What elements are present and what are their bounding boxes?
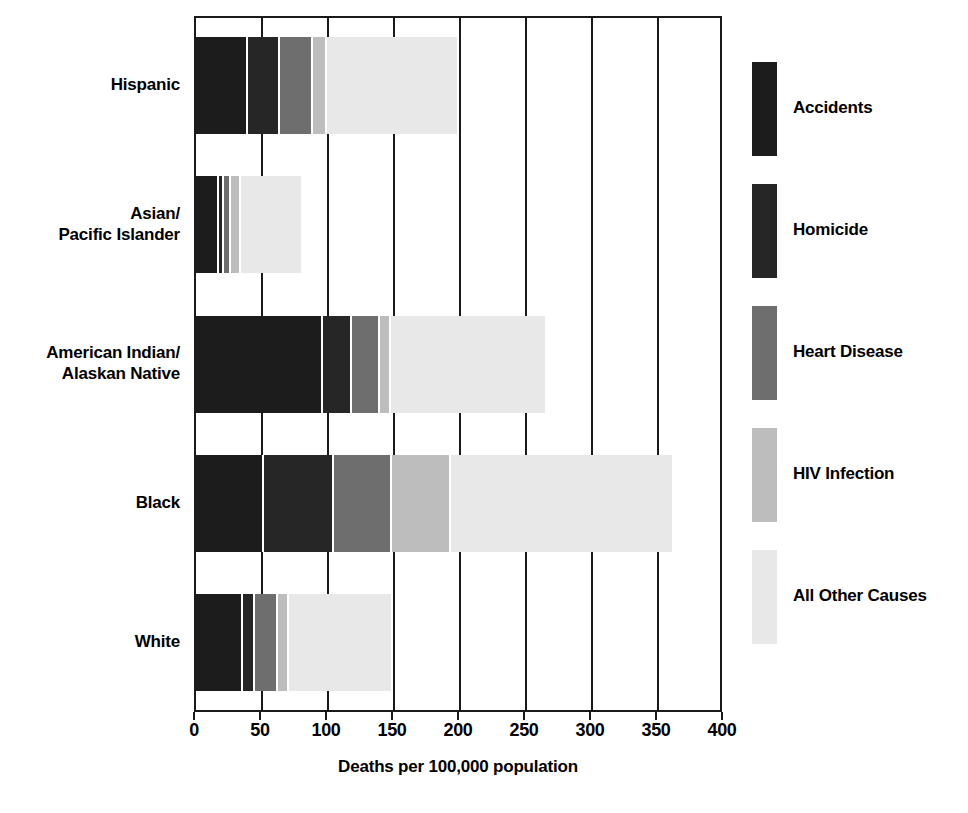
bar-segment[interactable] (224, 176, 231, 273)
bar-segment[interactable] (231, 176, 242, 273)
bar-row (194, 37, 722, 134)
bar-segment[interactable] (194, 37, 248, 134)
x-tick-label: 350 (641, 720, 670, 741)
x-tick-mark (325, 712, 327, 720)
legend-swatch (752, 428, 777, 522)
x-tick-label: 0 (189, 720, 199, 741)
category-label: White (135, 632, 180, 653)
bar-row (194, 594, 722, 691)
x-axis-title: Deaths per 100,000 population (194, 757, 722, 777)
bar-segment[interactable] (280, 37, 313, 134)
legend-item[interactable]: Heart Disease (752, 296, 968, 390)
bar-segment[interactable] (264, 455, 334, 552)
stacked-bar[interactable] (194, 594, 391, 691)
stacked-bar[interactable] (194, 455, 672, 552)
x-tick-mark (523, 712, 525, 720)
x-tick-mark (589, 712, 591, 720)
stacked-bar[interactable] (194, 316, 545, 413)
bar-segment[interactable] (255, 594, 279, 691)
legend-swatch (752, 184, 777, 278)
bar-segment[interactable] (248, 37, 280, 134)
legend-label: Homicide (793, 220, 868, 240)
legend-item[interactable]: HIV Infection (752, 418, 968, 512)
legend-swatch (752, 306, 777, 400)
legend-label: HIV Infection (793, 464, 894, 484)
bar-segment[interactable] (451, 455, 671, 552)
legend-item[interactable]: Accidents (752, 52, 968, 146)
x-tick-label: 400 (707, 720, 736, 741)
stacked-bar[interactable] (194, 37, 457, 134)
legend-label: Accidents (793, 98, 872, 118)
x-tick-label: 250 (509, 720, 538, 741)
stacked-bar[interactable] (194, 176, 301, 273)
category-label: Hispanic (111, 75, 180, 96)
x-tick-mark (193, 712, 195, 720)
legend-item[interactable]: All Other Causes (752, 540, 968, 634)
x-tick-label: 50 (250, 720, 269, 741)
x-tick-label: 100 (311, 720, 340, 741)
x-tick-mark (457, 712, 459, 720)
bar-segment[interactable] (194, 316, 323, 413)
bar-segment[interactable] (241, 176, 300, 273)
bars-layer (194, 16, 722, 712)
x-tick-label: 150 (377, 720, 406, 741)
bar-segment[interactable] (313, 37, 328, 134)
x-tick-mark (721, 712, 723, 720)
legend-label: Heart Disease (793, 342, 903, 362)
x-tick-label: 300 (575, 720, 604, 741)
stacked-bar-chart-figure: HispanicAsian/ Pacific IslanderAmerican … (0, 0, 968, 813)
legend-label: All Other Causes (793, 586, 927, 606)
bar-segment[interactable] (327, 37, 456, 134)
bar-segment[interactable] (194, 455, 264, 552)
x-tick-mark (655, 712, 657, 720)
bar-segment[interactable] (289, 594, 391, 691)
bar-segment[interactable] (391, 316, 545, 413)
legend-item[interactable]: Homicide (752, 174, 968, 268)
x-tick-mark (259, 712, 261, 720)
bar-segment[interactable] (352, 316, 380, 413)
bar-row (194, 316, 722, 413)
bar-segment[interactable] (392, 455, 451, 552)
bar-segment[interactable] (380, 316, 391, 413)
bar-segment[interactable] (334, 455, 392, 552)
bar-row (194, 455, 722, 552)
bar-segment[interactable] (278, 594, 289, 691)
bar-segment[interactable] (194, 176, 219, 273)
x-tick-mark (391, 712, 393, 720)
legend-swatch (752, 550, 777, 644)
bar-segment[interactable] (323, 316, 352, 413)
legend-swatch (752, 62, 777, 156)
bar-segment[interactable] (243, 594, 255, 691)
bar-segment[interactable] (194, 594, 243, 691)
category-label: American Indian/ Alaskan Native (46, 343, 180, 384)
bar-row (194, 176, 722, 273)
category-label: Black (136, 493, 180, 514)
category-label: Asian/ Pacific Islander (58, 204, 180, 245)
x-tick-label: 200 (443, 720, 472, 741)
